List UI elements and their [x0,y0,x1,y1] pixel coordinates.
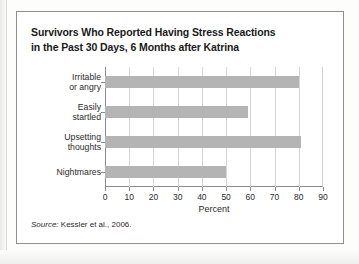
category-axis-labels: Irritableor angryEasilystartledUpsetting… [23,67,101,187]
bar-easily-startled [105,106,248,118]
x-tick-label-20: 20 [149,192,158,202]
bar-upsetting-thoughts [105,136,301,148]
x-tick-label-50: 50 [221,192,230,202]
x-tick-10 [129,187,130,191]
category-label-nightmares: Nightmares [27,167,101,178]
gridline-80 [299,67,300,187]
source-citation: Kessler et al., 2006. [61,220,132,229]
page-gutter-line [6,0,7,264]
category-label-line: or angry [27,82,101,93]
page-bottom-shading [0,250,359,264]
figure-box: Survivors Who Reported Having Stress Rea… [16,11,344,244]
y-tick-0 [101,82,105,83]
x-tick-label-80: 80 [294,192,303,202]
category-label-line: Upsetting [27,132,101,143]
y-tick-2 [101,142,105,143]
x-tick-label-90: 90 [318,192,327,202]
x-tick-label-30: 30 [173,192,182,202]
category-label-line: startled [27,112,101,123]
figure-title-line-2: in the Past 30 Days, 6 Months after Katr… [31,40,331,55]
category-label-easily-startled: Easilystartled [27,102,101,123]
figure-title-line-1: Survivors Who Reported Having Stress Rea… [31,25,331,40]
bar-irritable-or-angry [105,76,299,88]
plot-area: 0102030405060708090 [105,67,323,187]
x-tick-label-10: 10 [124,192,133,202]
figure-title: Survivors Who Reported Having Stress Rea… [31,25,331,54]
y-tick-1 [101,112,105,113]
x-tick-30 [178,187,179,191]
category-label-line: Easily [27,102,101,113]
y-tick-3 [101,172,105,173]
category-label-line: Nightmares [27,167,101,178]
category-label-line: Irritable [27,72,101,83]
source-label: Source: [31,220,59,229]
x-tick-0 [105,187,106,191]
x-tick-label-60: 60 [246,192,255,202]
source-note: Source: Kessler et al., 2006. [31,220,132,229]
x-tick-70 [275,187,276,191]
x-tick-20 [153,187,154,191]
x-tick-50 [226,187,227,191]
x-tick-label-70: 70 [270,192,279,202]
x-tick-60 [250,187,251,191]
category-label-upsetting-thoughts: Upsettingthoughts [27,132,101,153]
category-label-irritable-or-angry: Irritableor angry [27,72,101,93]
x-tick-90 [323,187,324,191]
bar-nightmares [105,166,226,178]
x-tick-label-0: 0 [103,192,108,202]
page-background: Survivors Who Reported Having Stress Rea… [0,0,359,264]
x-tick-80 [299,187,300,191]
x-tick-label-40: 40 [197,192,206,202]
category-label-line: thoughts [27,142,101,153]
x-axis-title: Percent [105,204,323,214]
x-tick-40 [202,187,203,191]
